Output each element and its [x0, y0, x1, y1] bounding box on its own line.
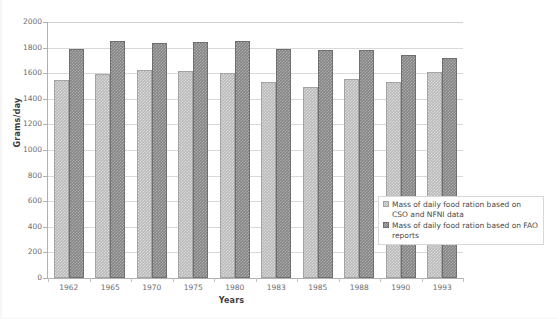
bar-series-0-1970	[137, 70, 152, 278]
x-tick-mark	[90, 278, 91, 282]
x-tick-label: 1985	[297, 283, 339, 292]
x-tick-label: 1983	[255, 283, 297, 292]
scan-edge-left	[0, 0, 3, 319]
bar-series-1-1980	[235, 41, 250, 278]
bar-series-1-1975	[193, 42, 208, 278]
x-tick-label: 1965	[89, 283, 131, 292]
bar-series-1-1965	[110, 41, 125, 278]
y-tick-label: 400	[8, 223, 42, 231]
y-axis-title: Grams/day	[13, 78, 22, 168]
x-tick-label: 1962	[48, 283, 90, 292]
bar-series-1-1983	[276, 49, 291, 278]
legend: Mass of daily food ration based on CSO a…	[378, 196, 544, 245]
bar-series-0-1985	[303, 87, 318, 278]
y-tick-label: 2000	[8, 18, 42, 26]
x-tick-mark	[297, 278, 298, 282]
bar-series-0-1962	[54, 80, 69, 278]
x-tick-label: 1990	[380, 283, 422, 292]
y-tick-label: 600	[8, 197, 42, 205]
bar-series-0-1993	[427, 72, 442, 278]
x-tick-label: 1988	[338, 283, 380, 292]
y-tick-label: 0	[8, 274, 42, 282]
x-tick-mark	[173, 278, 174, 282]
legend-item-label: Mass of daily food ration based on FAO r…	[392, 221, 539, 240]
x-tick-mark	[214, 278, 215, 282]
x-tick-mark	[422, 278, 423, 282]
y-tick-label: 200	[8, 248, 42, 256]
bar-series-0-1988	[344, 79, 359, 278]
bar-series-0-1975	[178, 71, 193, 278]
bar-series-0-1983	[261, 82, 276, 278]
legend-item-series-1[interactable]: Mass of daily food ration based on FAO r…	[383, 221, 539, 240]
legend-item-series-0[interactable]: Mass of daily food ration based on CSO a…	[383, 200, 539, 219]
series-1-swatch-icon	[383, 222, 389, 228]
x-tick-mark	[131, 278, 132, 282]
x-tick-label: 1980	[214, 283, 256, 292]
x-tick-mark	[256, 278, 257, 282]
x-tick-mark	[380, 278, 381, 282]
bar-series-1-1962	[69, 49, 84, 278]
x-tick-mark	[48, 278, 49, 282]
x-tick-label: 1975	[172, 283, 214, 292]
legend-item-label: Mass of daily food ration based on CSO a…	[392, 200, 539, 219]
x-axis-line	[47, 278, 463, 279]
bar-series-1-1985	[318, 50, 333, 278]
bar-series-1-1993	[442, 58, 457, 278]
y-tick-label: 1600	[8, 69, 42, 77]
x-tick-mark	[339, 278, 340, 282]
bar-series-0-1990	[386, 82, 401, 278]
bar-series-1-1970	[152, 43, 167, 278]
bar-chart: 0200400600800100012001400160018002000 Gr…	[0, 0, 557, 319]
y-tick-label: 800	[8, 172, 42, 180]
bar-series-0-1965	[95, 74, 110, 278]
x-axis-title: Years	[0, 296, 463, 305]
bar-series-0-1980	[220, 73, 235, 278]
y-tick-label: 1800	[8, 44, 42, 52]
x-tick-label: 1993	[421, 283, 463, 292]
x-tick-label: 1970	[131, 283, 173, 292]
bar-series-1-1988	[359, 50, 374, 278]
series-0-swatch-icon	[383, 201, 389, 207]
x-tick-mark	[463, 278, 464, 282]
